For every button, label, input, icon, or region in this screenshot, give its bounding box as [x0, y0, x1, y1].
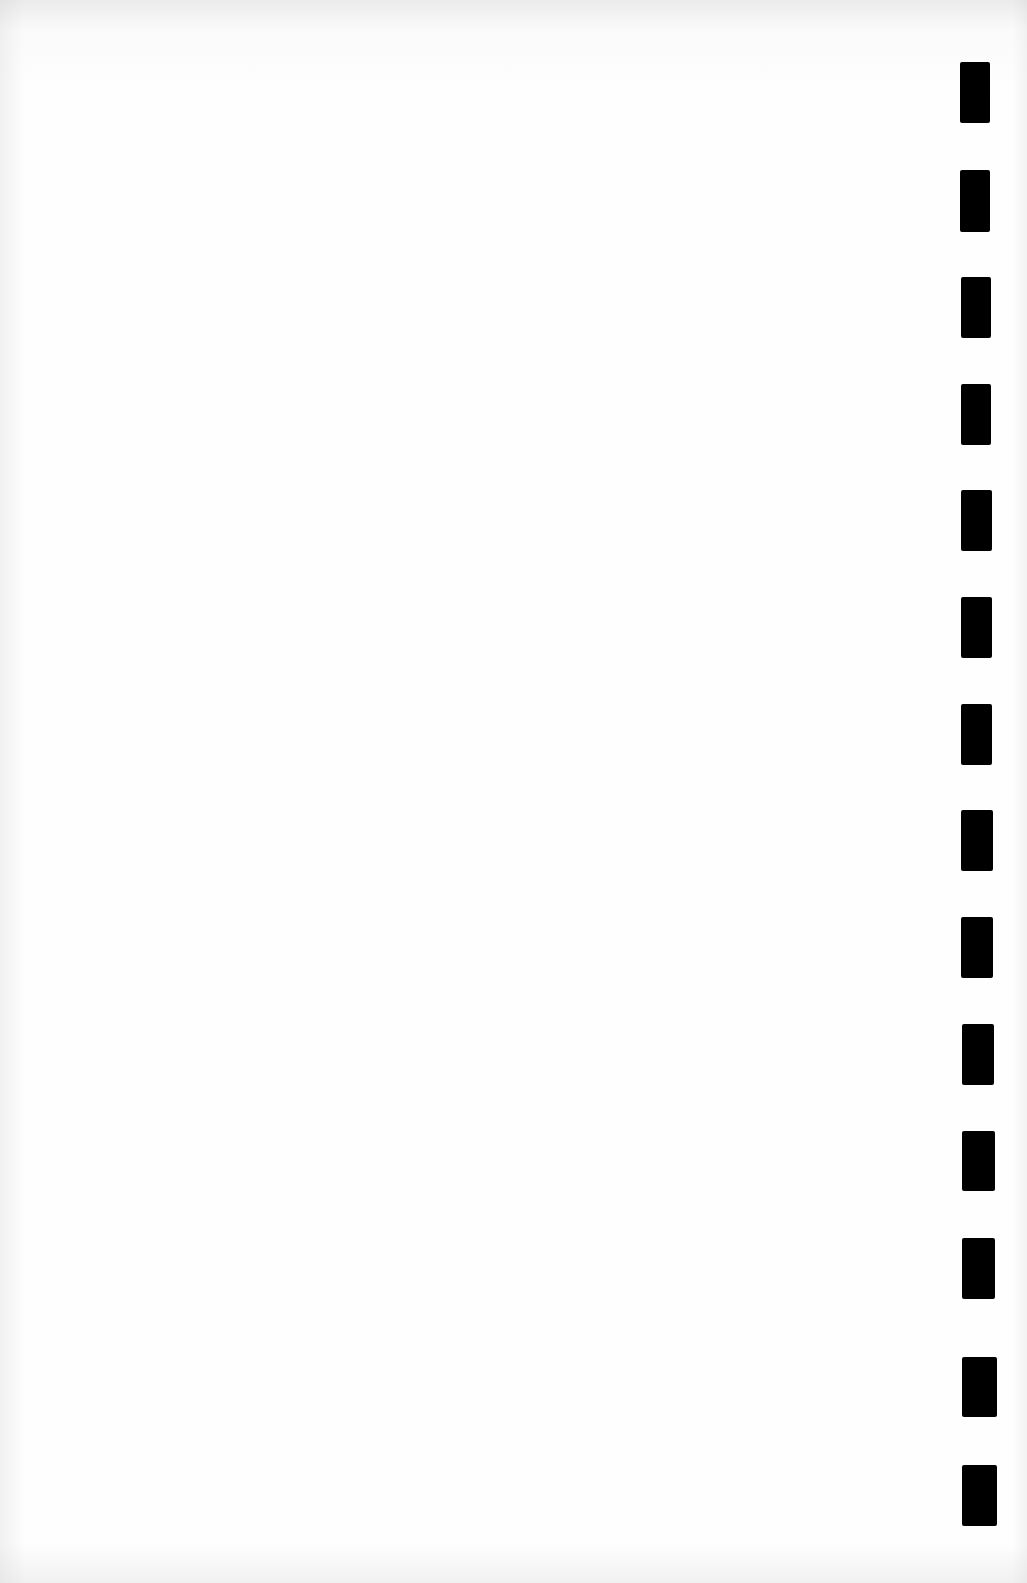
timing-mark: [960, 62, 990, 123]
timing-mark: [961, 384, 991, 445]
timing-mark: [962, 1024, 994, 1085]
timing-mark: [961, 277, 991, 338]
timing-mark: [961, 597, 992, 658]
timing-mark: [962, 1357, 997, 1417]
timing-mark: [962, 1238, 995, 1299]
timing-mark: [961, 490, 992, 551]
timing-mark: [961, 917, 993, 978]
timing-mark: [960, 170, 990, 232]
timing-mark: [962, 1131, 995, 1191]
timing-mark-strip: [0, 0, 1027, 1583]
blank-page: [0, 0, 1027, 1583]
timing-mark: [962, 1465, 997, 1526]
timing-mark: [961, 704, 992, 765]
timing-mark: [961, 810, 993, 871]
